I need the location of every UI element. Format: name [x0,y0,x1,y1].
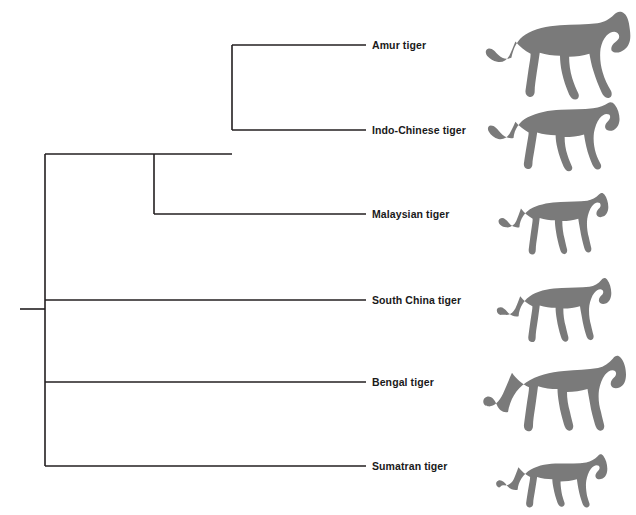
indo-chinese-tiger-silhouette [487,102,629,174]
bengal-tiger-silhouette [482,348,632,434]
tip-label-indo-chinese: Indo-Chinese tiger [372,125,466,136]
tip-label-bengal: Bengal tiger [372,377,434,388]
south-china-tiger-silhouette [495,272,617,344]
tip-label-amur: Amur tiger [372,40,426,51]
tip-label-malaysian: Malaysian tiger [372,209,449,220]
sumatran-tiger-silhouette [495,450,612,510]
tip-label-sumatran: Sumatran tiger [372,461,448,472]
phylogenetic-tree-figure: Amur tiger Indo-Chinese tiger Malaysian … [0,0,636,515]
tip-label-south-china: South China tiger [372,295,461,306]
malaysian-tiger-silhouette [496,186,613,258]
amur-tiger-silhouette [484,8,636,102]
